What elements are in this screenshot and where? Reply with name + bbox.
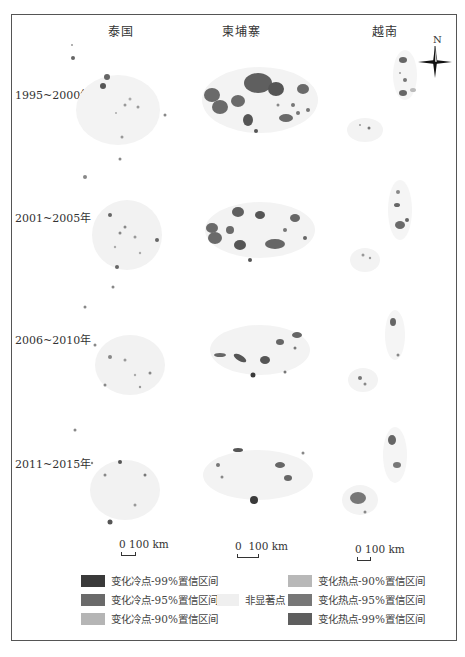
map-thailand-2001-2005 [65,165,175,295]
column-title-cambodia: 柬埔寨 [222,22,261,39]
scalebar-vietnam: 0 100 km [355,543,405,555]
swatch-cold-99 [81,575,105,587]
swatch-cold-95 [81,594,105,606]
swatch-cold-90 [81,613,105,625]
legend-hot-99: 变化热点-99%置信区间 [288,611,425,626]
north-arrow-icon: N [418,34,460,82]
map-vietnam-2001-2005 [345,170,420,280]
swatch-hot-90 [288,575,312,587]
map-thailand-1995-2000 [60,35,180,165]
swatch-hot-99 [288,613,312,625]
column-title-vietnam: 越南 [372,22,398,39]
legend-hot-90: 变化热点-90%置信区间 [288,573,425,588]
legend-hot-95: 变化热点-95%置信区间 [288,592,425,607]
map-vietnam-2006-2010 [345,300,420,410]
map-thailand-2006-2010 [80,295,175,410]
scalebar-thailand: 0 100 km [119,538,169,550]
legend-cold-95: 变化冷点-95%置信区间 [81,592,218,607]
swatch-not-significant [217,594,239,606]
map-cambodia-2006-2010 [205,320,320,400]
swatch-hot-95 [288,594,312,606]
legend-cold-90: 变化冷点-90%置信区间 [81,611,218,626]
map-cambodia-1995-2000 [198,65,318,145]
map-thailand-2011-2015 [70,420,170,535]
map-cambodia-2011-2015 [200,445,315,530]
map-cambodia-2001-2005 [200,200,315,280]
scalebar-cambodia: 0 100 km [235,540,288,552]
map-vietnam-1995-2000 [345,45,420,145]
map-vietnam-2011-2015 [340,420,420,530]
legend-not-significant: 非显著点 [217,592,285,607]
legend-cold-99: 变化冷点-99%置信区间 [81,573,218,588]
